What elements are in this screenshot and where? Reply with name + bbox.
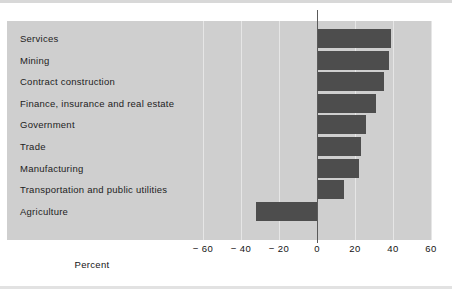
top-divider [0,0,452,3]
x-axis-title-text: Percent [75,259,110,270]
bar [317,115,366,134]
x-tick-label--60: − 60 [183,243,223,254]
gridline-40 [393,21,394,240]
x-tick-label-60: 60 [411,243,451,254]
category-label: Manufacturing [20,163,83,175]
x-axis: Percent − 60− 40− 200204060 [0,240,452,289]
x-tick-label-40: 40 [373,243,413,254]
x-tick-label-20: 20 [335,243,375,254]
bar [256,202,317,221]
bar [317,180,344,199]
category-label: Finance, insurance and real estate [20,98,174,110]
bar [317,51,389,70]
x-tick-label--40: − 40 [221,243,261,254]
gridline-60 [431,21,432,240]
bar [317,159,359,178]
category-label: Contract construction [20,76,115,88]
plot-panel: ServicesMiningContract constructionFinan… [7,21,432,240]
category-label: Mining [20,55,50,67]
bar [317,72,384,91]
category-label: Trade [20,141,46,153]
bar-chart-figure: ServicesMiningContract constructionFinan… [0,0,452,289]
bar [317,94,376,113]
category-label: Services [20,33,58,45]
x-axis-title: Percent [0,259,452,270]
x-tick-label-0: 0 [297,243,337,254]
category-label: Agriculture [20,206,68,218]
gridline--40 [241,21,242,240]
category-label: Government [20,119,75,131]
bar [317,137,361,156]
x-tick-label--20: − 20 [259,243,299,254]
gridline--60 [203,21,204,240]
zero-axis-line [317,10,318,243]
bar [317,29,391,48]
category-label: Transportation and public utilities [20,184,167,196]
